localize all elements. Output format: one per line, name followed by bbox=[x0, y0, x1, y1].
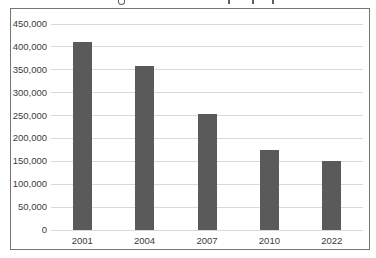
x-tick-label: 2004 bbox=[113, 235, 175, 246]
x-tick-label: 2001 bbox=[51, 235, 113, 246]
cropped-title-descender-icon bbox=[228, 0, 230, 4]
x-axis-labels: 20012004200720102022 bbox=[11, 9, 369, 249]
x-tick-label: 2010 bbox=[238, 235, 300, 246]
cropped-title-descender-icon bbox=[272, 0, 274, 4]
bar-chart-plot-area: 450,000400,000350,000300,000250,000200,0… bbox=[11, 9, 369, 249]
x-tick-label: 2022 bbox=[301, 235, 363, 246]
cropped-title-remnants bbox=[0, 0, 376, 6]
scanned-chart-page: 450,000400,000350,000300,000250,000200,0… bbox=[0, 0, 376, 258]
cropped-title-descender-icon bbox=[252, 0, 254, 4]
chart-frame: 450,000400,000350,000300,000250,000200,0… bbox=[10, 8, 370, 250]
cropped-title-descender-icon bbox=[118, 0, 125, 5]
x-tick-label: 2007 bbox=[176, 235, 238, 246]
